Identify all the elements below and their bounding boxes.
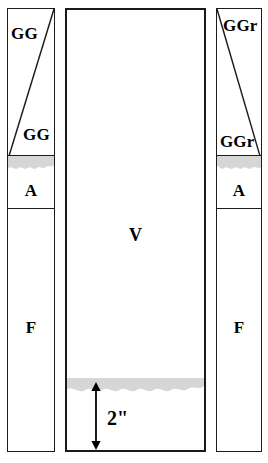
dimension-arrow: [88, 382, 104, 450]
dimension-label: 2": [107, 408, 128, 428]
center-v-label: V: [129, 226, 142, 244]
left-a-label: A: [25, 182, 37, 199]
right-a-horizon: A: [217, 156, 261, 209]
right-a-label: A: [233, 182, 245, 199]
left-f-horizon: F: [8, 209, 54, 450]
right-ggr-top-label: GGr: [223, 17, 258, 34]
diagram-canvas: GG GG A F V: [0, 0, 268, 463]
left-gg-block: GG GG: [8, 9, 54, 156]
left-f-label: F: [26, 319, 37, 336]
right-ggr-block: GGr GGr: [217, 9, 261, 156]
left-gg-bottom-label: GG: [23, 126, 50, 143]
right-f-horizon: F: [217, 209, 261, 450]
right-f-label: F: [234, 319, 245, 336]
left-gg-top-label: GG: [11, 25, 38, 42]
center-column: V 2": [65, 8, 206, 452]
left-column: GG GG A F: [7, 8, 55, 452]
right-column: GGr GGr A F: [216, 8, 262, 452]
left-a-horizon: A: [8, 156, 54, 209]
right-ggr-bottom-label: GGr: [220, 133, 255, 150]
